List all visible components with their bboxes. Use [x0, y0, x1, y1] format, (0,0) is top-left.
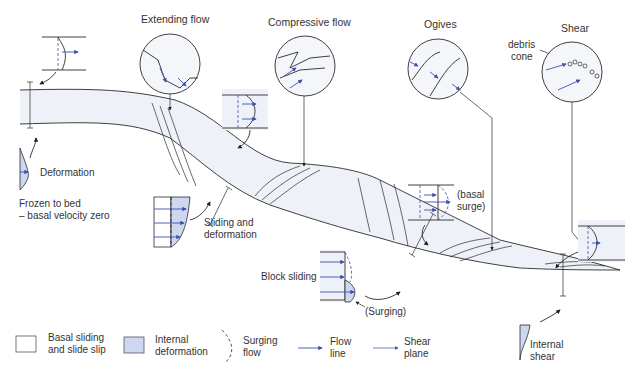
basal-surge-label-2: surge) [457, 201, 485, 212]
profile-deformation: Deformation Frozen to bed – basal veloci… [19, 138, 110, 221]
sliding-label-1: Sliding and [204, 217, 253, 228]
profile-sliding-and-deformation-left: Sliding and deformation [154, 197, 257, 247]
internal-shear-label-2: shear [530, 351, 556, 362]
internal-shear-label-1: Internal [530, 339, 563, 350]
callout-shear-label: Shear [561, 22, 590, 34]
surging-label: (Surging) [365, 306, 406, 317]
profile-top-left [40, 37, 86, 84]
glacier-flow-diagram: Extending flow Compressive flow Ogives S… [0, 0, 635, 375]
legend-label: plane [404, 348, 429, 359]
legend-label: deformation [155, 346, 208, 357]
callout-ogives-label: Ogives [424, 18, 457, 30]
frozen-label-1: Frozen to bed [19, 198, 81, 209]
callout-extending-flow-label: Extending flow [141, 13, 210, 25]
block-sliding-label: Block sliding [261, 271, 317, 282]
basal-surge-label-1: (basal [457, 189, 484, 200]
legend: Basal sliding and slide slip Internal de… [16, 330, 431, 362]
blue-box-icon [124, 337, 144, 353]
legend-label: and slide slip [48, 344, 106, 355]
debris-cone-label-1: debris [508, 39, 535, 50]
callout-shear: Shear debris cone [508, 22, 602, 244]
legend-label: Internal [155, 334, 188, 345]
deformation-label: Deformation [40, 167, 94, 178]
legend-label: Basal sliding [48, 332, 104, 343]
callout-compressive-flow-label: Compressive flow [268, 16, 351, 28]
debris-cone-label-2: cone [511, 51, 533, 62]
legend-label: flow [243, 347, 262, 358]
profile-internal-shear: Internal shear [520, 310, 563, 362]
legend-label: line [330, 348, 346, 359]
legend-item-shear-plane: Shear plane [373, 336, 431, 359]
sliding-label-2: deformation [204, 229, 257, 240]
profile-block-sliding: Block sliding (Surging) [261, 250, 406, 317]
legend-label: Shear [404, 336, 431, 347]
white-box-icon [16, 336, 36, 352]
legend-item-flow-line: Flow line [298, 336, 352, 359]
dashed-curve-icon [222, 330, 232, 362]
callout-compressive-flow: Compressive flow [268, 16, 351, 166]
legend-item-surging-flow: Surging flow [222, 330, 277, 362]
legend-item-internal-deformation: Internal deformation [124, 334, 208, 357]
legend-label: Surging [243, 335, 277, 346]
frozen-label-2: – basal velocity zero [19, 210, 110, 221]
legend-item-basal-sliding: Basal sliding and slide slip [16, 332, 106, 355]
legend-label: Flow [330, 336, 352, 347]
